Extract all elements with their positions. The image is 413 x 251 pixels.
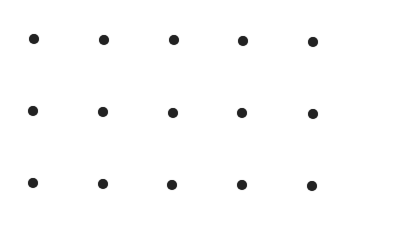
grid-dot bbox=[28, 178, 38, 188]
grid-dot bbox=[307, 181, 317, 191]
grid-dot bbox=[98, 179, 108, 189]
grid-dot bbox=[169, 35, 179, 45]
grid-dot bbox=[29, 34, 39, 44]
grid-dot bbox=[98, 107, 108, 117]
grid-dot bbox=[168, 108, 178, 118]
grid-dot bbox=[28, 106, 38, 116]
grid-dot bbox=[238, 36, 248, 46]
grid-dot bbox=[308, 109, 318, 119]
grid-dot bbox=[99, 35, 109, 45]
grid-dot bbox=[167, 180, 177, 190]
grid-dot bbox=[237, 180, 247, 190]
grid-dot bbox=[237, 108, 247, 118]
dot-grid-canvas bbox=[0, 0, 413, 251]
grid-dot bbox=[308, 37, 318, 47]
